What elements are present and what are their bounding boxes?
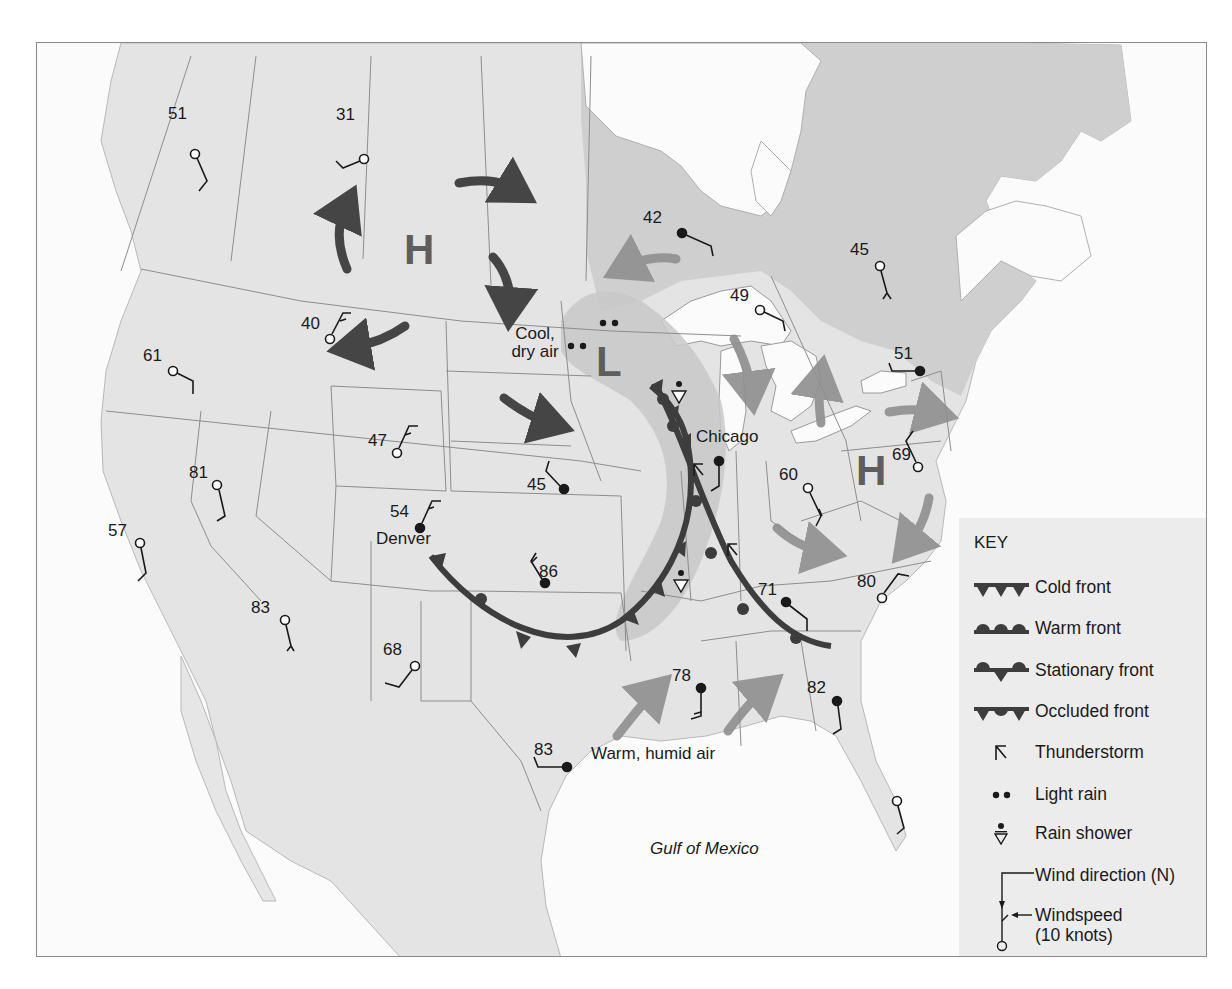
- warm-front-icon: [974, 616, 1034, 640]
- station-temp: 78: [672, 667, 691, 685]
- key-label: Wind direction (N): [1035, 865, 1175, 886]
- rain-shower-icon: [974, 821, 1034, 845]
- station-temp: 86: [539, 563, 558, 581]
- station-temp: 40: [301, 315, 320, 333]
- key-item-warm-front: Warm front: [959, 616, 1206, 640]
- weather-map: H L H 51 31 42 45 49 40 61 51 47 69 45 6…: [36, 42, 1207, 957]
- occluded-front-icon: [974, 699, 1034, 723]
- key-label: Stationary front: [1035, 660, 1154, 681]
- station-temp: 81: [189, 464, 208, 482]
- cool-air-line2: dry air: [485, 343, 585, 361]
- station-temp: 51: [894, 345, 913, 363]
- station-temp: 69: [892, 446, 911, 464]
- cold-front-icon: [974, 575, 1034, 599]
- station-temp: 42: [643, 209, 662, 227]
- station-temp: 80: [857, 573, 876, 591]
- city-label-denver: Denver: [376, 530, 431, 548]
- water-label-gulf: Gulf of Mexico: [650, 840, 759, 858]
- station-temp: 82: [807, 679, 826, 697]
- key-title: KEY: [974, 533, 1008, 553]
- key-label: Occluded front: [1035, 701, 1149, 722]
- key-label: Warm front: [1035, 618, 1121, 639]
- air-mass-label-warm: Warm, humid air: [591, 745, 715, 763]
- station-model-icon: [974, 903, 1036, 955]
- key-label: Light rain: [1035, 784, 1107, 805]
- low-pressure-center: L: [596, 341, 622, 383]
- key-label: Rain shower: [1035, 823, 1132, 844]
- key-item-wind-direction: Wind direction (N): [959, 863, 1206, 887]
- light-rain-icon: [974, 782, 1034, 806]
- station-temp: 83: [534, 741, 553, 759]
- station-temp: 71: [758, 581, 777, 599]
- key-label: Cold front: [1035, 577, 1111, 598]
- key-label: Thunderstorm: [1035, 742, 1144, 763]
- station-temp: 45: [850, 241, 869, 259]
- station-temp: 54: [390, 503, 409, 521]
- station-temp: 61: [143, 347, 162, 365]
- station-temp: 60: [779, 466, 798, 484]
- key-item-light-rain: Light rain: [959, 782, 1206, 806]
- station-temp: 45: [527, 476, 546, 494]
- city-label-chicago: Chicago: [696, 428, 758, 446]
- station-temp: 49: [730, 287, 749, 305]
- station-temp: 83: [251, 599, 270, 617]
- arrow-ontario-north: [819, 381, 821, 423]
- station-temp: 68: [383, 641, 402, 659]
- high-pressure-east: H: [856, 450, 886, 492]
- stationary-front-icon: [974, 658, 1034, 682]
- high-pressure-west: H: [404, 229, 434, 271]
- station-temp: 57: [108, 522, 127, 540]
- key-item-rain-shower: Rain shower: [959, 821, 1206, 845]
- key-item-cold-front: Cold front: [959, 575, 1206, 599]
- station-temp: 51: [168, 105, 187, 123]
- arrow-ny-east: [889, 410, 933, 412]
- key-item-thunderstorm: Thunderstorm: [959, 740, 1206, 764]
- key-item-windspeed: Windspeed (10 knots): [959, 903, 1206, 953]
- key-label: Windspeed: [1035, 905, 1123, 926]
- key-item-occluded-front: Occluded front: [959, 699, 1206, 723]
- station-temp: 47: [368, 432, 387, 450]
- thunderstorm-icon: [974, 740, 1034, 764]
- map-key: KEY Cold front Warm front Stationary fro…: [959, 518, 1206, 956]
- air-mass-label-cool: Cool, dry air: [485, 325, 585, 361]
- key-item-stationary-front: Stationary front: [959, 658, 1206, 682]
- station-temp: 31: [336, 106, 355, 124]
- key-label: (10 knots): [1035, 925, 1113, 946]
- cool-air-line1: Cool,: [485, 325, 585, 343]
